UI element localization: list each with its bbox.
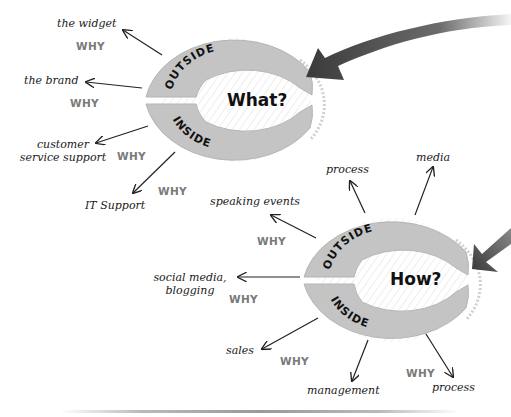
how-outside-item-label: process — [326, 163, 369, 176]
bottom-divider — [60, 410, 460, 413]
how-center-label: How? — [390, 269, 441, 289]
what-inside-item-label: customer service support — [18, 138, 108, 164]
what-center-label: What? — [227, 90, 287, 110]
why-label: WHY — [257, 235, 286, 247]
how-outside-item-label: speaking events — [210, 195, 300, 208]
how-inside-item-label: management — [307, 384, 380, 397]
label-line: customer — [18, 138, 108, 151]
why-label: WHY — [406, 367, 435, 379]
how-inside-item-label: sales — [226, 344, 254, 357]
label-line: service support — [18, 151, 108, 164]
why-label: WHY — [76, 40, 105, 52]
why-label: WHY — [117, 150, 146, 162]
how-outside-item-label: social media, blogging — [148, 271, 232, 297]
diagram-canvas: OUTSIDE INSIDE OUTSIDE INSIDE — [0, 0, 511, 417]
why-label: WHY — [280, 355, 309, 367]
big-arrow-right — [472, 228, 511, 272]
why-label: WHY — [70, 97, 99, 109]
why-label: WHY — [158, 185, 187, 197]
what-outside-item-label: the brand — [24, 74, 79, 87]
label-line: blogging — [148, 284, 232, 297]
how-inside-item-label: process — [432, 381, 475, 394]
why-label: WHY — [229, 293, 258, 305]
what-outside-item-label: the widget — [57, 17, 116, 30]
how-outside-item-label: media — [416, 151, 450, 164]
label-line: social media, — [148, 271, 232, 284]
what-inside-item-label: IT Support — [85, 199, 145, 212]
big-arrow-top — [306, 14, 511, 80]
